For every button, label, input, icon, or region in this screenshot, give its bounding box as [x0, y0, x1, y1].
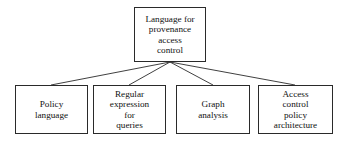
node-regular-expression-for-queries[interactable]: Regular expression for queries — [93, 85, 166, 134]
node-regular-expression-for-queries-label: Regular expression for queries — [94, 89, 165, 130]
edge-root-to-graph-analysis — [170, 62, 213, 85]
node-policy-language-label: Policy language — [16, 99, 87, 120]
node-root[interactable]: Language for provenance access control — [134, 7, 206, 62]
node-graph-analysis-label: Graph analysis — [177, 99, 249, 120]
tree-diagram: Language for provenance access control P… — [0, 0, 345, 147]
edge-root-to-regular-expression-for-queries — [129, 62, 170, 85]
edge-root-to-policy-language — [51, 62, 170, 85]
node-policy-language[interactable]: Policy language — [15, 85, 88, 134]
node-graph-analysis[interactable]: Graph analysis — [176, 85, 250, 134]
node-access-control-policy-architecture-label: Access control policy architecture — [259, 89, 332, 130]
node-access-control-policy-architecture[interactable]: Access control policy architecture — [258, 85, 333, 134]
edge-root-to-access-control-policy-architecture — [170, 62, 295, 85]
node-root-label: Language for provenance access control — [135, 14, 205, 55]
